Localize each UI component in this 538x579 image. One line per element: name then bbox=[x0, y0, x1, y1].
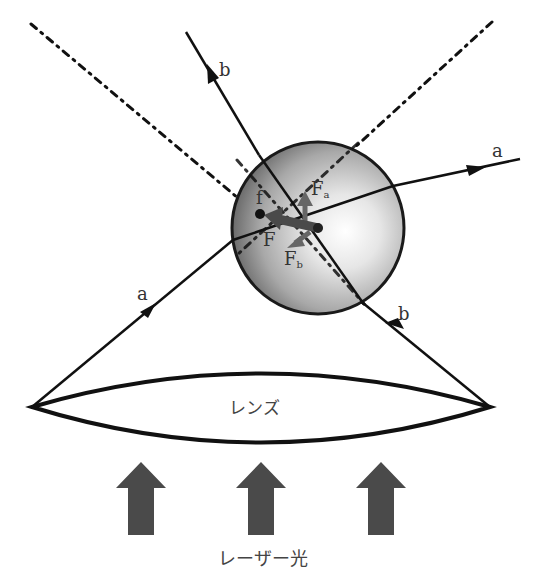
sphere-center-dot bbox=[313, 223, 323, 233]
ray-a-right-label: a bbox=[492, 140, 503, 161]
laser-arrow-icon bbox=[356, 462, 406, 535]
lens-label: レンズ bbox=[229, 398, 280, 418]
ray-b-top-arrowhead-icon bbox=[207, 64, 219, 84]
force-total-label: F bbox=[263, 229, 276, 250]
ray-b-top-label: b bbox=[219, 59, 231, 80]
focus-point-dot bbox=[255, 209, 265, 219]
laser-arrows bbox=[116, 462, 406, 535]
ray-a-left-label: a bbox=[137, 283, 148, 304]
optical-trapping-diagram: b a f Fa F Fb a b レンズ レーザー光 bbox=[0, 0, 538, 579]
laser-arrow-icon bbox=[116, 462, 166, 535]
laser-label: レーザー光 bbox=[218, 548, 308, 569]
ray-b-bottom-label: b bbox=[398, 303, 410, 324]
laser-arrow-icon bbox=[236, 462, 286, 535]
